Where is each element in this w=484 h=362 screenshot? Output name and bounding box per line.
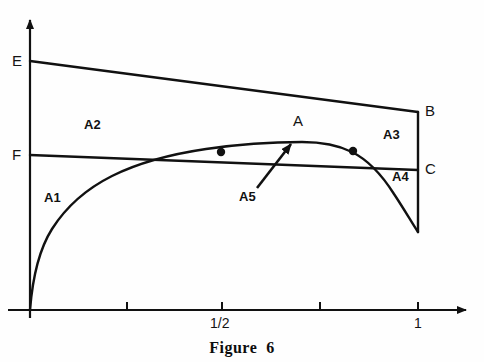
label-point-B: B — [425, 103, 435, 118]
figure-drawing — [0, 0, 484, 362]
dot-on-chord — [349, 147, 357, 155]
figure-6-container: E F A B C A1 A2 A3 A4 A5 1/2 1 Figure 6 — [0, 0, 484, 362]
label-point-C: C — [425, 161, 436, 176]
x-tick-label-one: 1 — [414, 316, 422, 330]
label-region-a2: A2 — [84, 118, 101, 131]
figure-caption: Figure 6 — [0, 340, 484, 356]
label-point-A: A — [293, 113, 303, 128]
label-region-a4: A4 — [392, 170, 409, 183]
x-tick-label-half: 1/2 — [210, 316, 229, 330]
label-region-a3: A3 — [383, 128, 400, 141]
label-region-a1: A1 — [44, 191, 61, 204]
line-E-to-B — [30, 61, 418, 112]
label-point-F: F — [12, 147, 21, 162]
label-region-a5: A5 — [239, 190, 256, 203]
label-point-E: E — [12, 53, 22, 68]
dot-at-half — [217, 148, 225, 156]
